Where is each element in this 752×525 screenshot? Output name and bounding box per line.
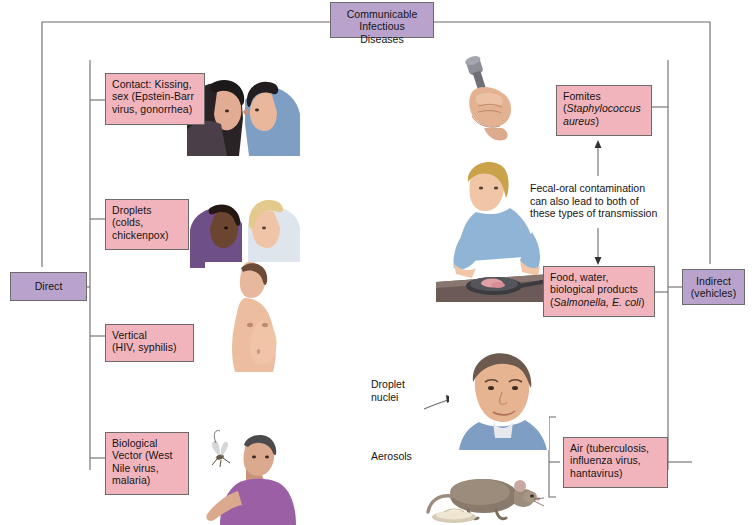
node-vertical[interactable]: Vertical (HIV, syphilis) xyxy=(105,324,194,362)
aerosols-label: Aerosols xyxy=(371,450,441,463)
biological-vector-line-3: Nile virus, xyxy=(112,462,182,474)
illustration-pregnant-woman xyxy=(205,262,300,372)
annotation-aerosols: Aerosols xyxy=(371,450,441,463)
fecal-oral-line-3: these types of transmission xyxy=(530,207,700,220)
fomites-line-1: Fomites xyxy=(563,90,645,102)
food-water-line-1: Food, water, xyxy=(550,271,648,283)
droplets-line-3: chickenpox) xyxy=(112,229,182,241)
node-contact[interactable]: Contact: Kissing, sex (Epstein-Barr viru… xyxy=(105,73,205,125)
header-line-1: Communicable xyxy=(337,8,427,20)
direct-label: Direct xyxy=(17,280,80,292)
contact-line-1: Contact: Kissing, xyxy=(112,78,198,90)
biological-vector-line-4: malaria) xyxy=(112,474,182,486)
air-line-1: Air (tuberculosis, xyxy=(570,442,661,454)
node-air[interactable]: Air (tuberculosis, influenza virus, hant… xyxy=(563,437,668,488)
vertical-line-2: (HIV, syphilis) xyxy=(112,341,187,353)
annotation-droplet-nuclei: Droplet nuclei xyxy=(371,378,441,403)
annotation-fecal-oral: Fecal-oral contamination can also lead t… xyxy=(530,182,700,220)
node-food-water[interactable]: Food, water, biological products (Salmon… xyxy=(543,266,655,317)
illustration-hand-with-dumbbell xyxy=(448,52,526,144)
indirect-line-2: (vehicles) xyxy=(689,287,738,299)
contact-line-2: sex (Epstein-Barr xyxy=(112,90,198,102)
droplet-nuclei-line-1: Droplet xyxy=(371,378,441,391)
food-water-paren-close: ) xyxy=(641,296,645,308)
node-droplets[interactable]: Droplets (colds, chickenpox) xyxy=(105,199,189,250)
fomites-line-2: (Staphylococcus xyxy=(563,102,645,114)
fomites-paren-close: ) xyxy=(595,115,599,127)
droplets-line-2: (colds, xyxy=(112,216,182,228)
node-direct[interactable]: Direct xyxy=(10,272,87,301)
vertical-line-1: Vertical xyxy=(112,329,187,341)
air-line-2: influenza virus, xyxy=(570,454,661,466)
air-line-3: hantavirus) xyxy=(570,467,661,479)
fomites-line-3: aureus) xyxy=(563,115,645,127)
biological-vector-line-1: Biological xyxy=(112,437,182,449)
illustration-man-with-mosquito xyxy=(190,425,300,525)
food-water-organisms: Salmonella, E. coli xyxy=(554,296,641,308)
node-communicable-infectious-diseases[interactable]: Communicable Infectious Diseases xyxy=(330,2,434,38)
droplet-nuclei-line-2: nuclei xyxy=(371,391,441,404)
indirect-line-1: Indirect xyxy=(689,275,738,287)
fecal-oral-line-2: can also lead to both of xyxy=(530,195,700,208)
biological-vector-line-2: Vector (West xyxy=(112,449,182,461)
node-biological-vector[interactable]: Biological Vector (West Nile virus, mala… xyxy=(105,432,189,495)
food-water-line-2: biological products xyxy=(550,283,648,295)
fomites-species: aureus xyxy=(563,115,595,127)
fecal-oral-line-1: Fecal-oral contamination xyxy=(530,182,700,195)
droplets-line-1: Droplets xyxy=(112,204,182,216)
illustration-man-face xyxy=(449,352,549,450)
illustration-rodent xyxy=(426,468,544,525)
node-fomites[interactable]: Fomites (Staphylococcus aureus) xyxy=(556,85,652,136)
food-water-line-3: (Salmonella, E. coli) xyxy=(550,296,648,308)
illustration-two-people-talking xyxy=(190,172,300,268)
fomites-genus: Staphylococcus xyxy=(567,102,641,114)
node-indirect[interactable]: Indirect (vehicles) xyxy=(682,269,745,305)
diagram-canvas: Communicable Infectious Diseases Direct … xyxy=(0,0,752,525)
contact-line-3: virus, gonorrhea) xyxy=(112,103,198,115)
header-line-2: Infectious Diseases xyxy=(337,20,427,45)
